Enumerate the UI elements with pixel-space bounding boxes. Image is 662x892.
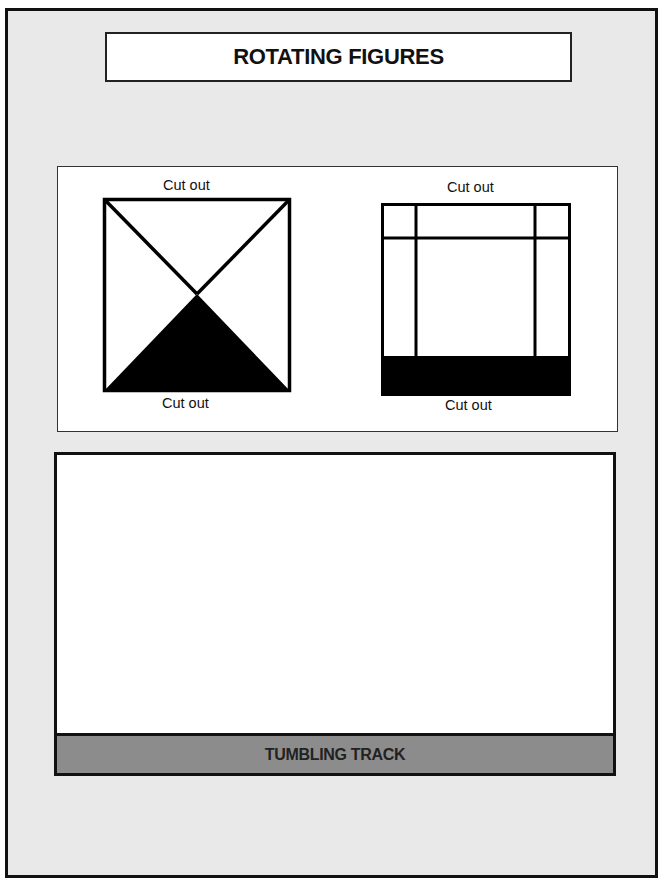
left-figure-top-label: Cut out xyxy=(163,177,210,193)
left-figure-square-cutout[interactable] xyxy=(103,198,291,392)
title-box: ROTATING FIGURES xyxy=(105,32,572,82)
left-figure-bottom-label: Cut out xyxy=(162,395,209,411)
tumbling-track-bar: TUMBLING TRACK xyxy=(57,733,613,773)
right-figure-square-cutout[interactable] xyxy=(381,203,571,396)
right-figure-top-label: Cut out xyxy=(447,179,494,195)
page-title: ROTATING FIGURES xyxy=(233,44,444,70)
right-figure-bottom-label: Cut out xyxy=(445,397,492,413)
tumbling-track-panel: TUMBLING TRACK xyxy=(54,452,616,776)
tumbling-track-label: TUMBLING TRACK xyxy=(265,746,406,764)
